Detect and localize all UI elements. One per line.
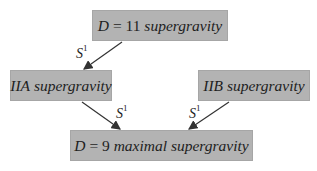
node-iib-supergravity: IIB supergravity <box>198 70 310 101</box>
edge-label-iia-d9: S1 <box>116 104 128 122</box>
edge-iia-d9 <box>82 102 120 129</box>
node-label: supergravity <box>30 77 112 95</box>
node-eq: = 11 <box>109 17 144 35</box>
edge-label-iib-d9: S1 <box>189 104 201 122</box>
node-math: D <box>98 17 109 35</box>
node-math: IIB <box>203 77 223 95</box>
node-math: D <box>74 137 85 155</box>
edge-label-d11-iia: S1 <box>76 44 88 62</box>
node-math: IIA <box>10 77 30 95</box>
edge-d11-iia <box>84 42 122 69</box>
node-d11-supergravity: D = 11 supergravity <box>92 10 228 41</box>
node-label: supergravity <box>223 77 305 95</box>
node-d9-maximal-supergravity: D = 9 maximal supergravity <box>70 130 253 161</box>
node-iia-supergravity: IIA supergravity <box>10 70 112 101</box>
node-label: supergravity <box>144 17 222 35</box>
node-eq: = 9 <box>86 137 114 155</box>
node-label: maximal supergravity <box>114 137 249 155</box>
